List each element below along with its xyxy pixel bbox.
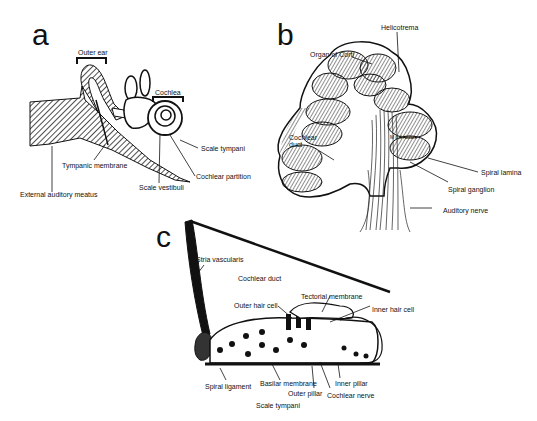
label-scale-vestibuli: Scale vestibuli (139, 184, 184, 191)
label-basilar-membrane: Basilar membrane (260, 380, 317, 387)
label-cochlear-nerve: Cochlear nerve (327, 392, 374, 399)
panel-c-letter: c (156, 222, 171, 252)
panel-a-drawing (30, 58, 198, 192)
panel-b-letter: b (277, 20, 294, 50)
label-outer-ear: Outer ear (78, 49, 108, 56)
label-inner-pillar: Inner pillar (335, 380, 368, 387)
label-auditory-nerve: Auditory nerve (443, 207, 488, 214)
label-spiral-ligament: Spiral ligament (205, 383, 251, 390)
label-outer-pillar: Outer pillar (288, 390, 322, 397)
label-scale-tympani-a: Scale tympani (201, 145, 245, 152)
label-tectorial-membrane: Tectorial membrane (301, 293, 362, 300)
label-inner-hair-cell: Inner hair cell (372, 306, 414, 313)
label-spiral-lamina: Spiral lamina (481, 169, 521, 176)
panel-a-letter: a (32, 20, 49, 50)
label-spiral-ganglion: Spiral ganglion (448, 186, 494, 193)
label-tympanic-membrane: Tympanic membrane (62, 162, 127, 169)
label-scale-tympani-c: Scale tympani (256, 402, 300, 409)
label-cochlear-duct-c: Cochlear duct (238, 275, 281, 282)
label-cochlea: Cochlea (155, 89, 181, 96)
label-cochlear-partition: Cochlear partition (196, 173, 251, 180)
panel-b-drawing (278, 32, 478, 232)
label-modiolus: Modiolus (390, 135, 418, 140)
label-outer-hair-cell: Outer hair cell (234, 302, 278, 309)
label-cochlear-duct-b: Cochlear duct (289, 134, 319, 148)
label-organ-of-corti: Organ of Corti (310, 51, 354, 58)
panel-c-drawing (185, 220, 390, 388)
label-external-auditory-meatus: External auditory meatus (20, 191, 97, 198)
label-helicotrema: Helicotrema (381, 24, 418, 31)
label-stria-vascularis: Stria vascularis (196, 256, 243, 263)
